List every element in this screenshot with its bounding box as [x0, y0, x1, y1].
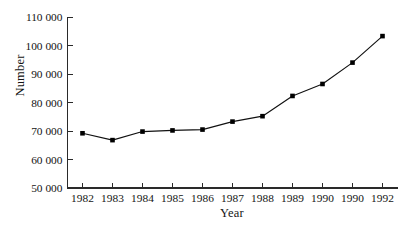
y-axis-ticks: 110 000100 00090 00080 00070 00060 00050…: [25, 11, 72, 194]
y-tick-label: 100 000: [25, 40, 62, 52]
data-point-marker: [200, 127, 205, 132]
chart-figure: Number Year 110 000100 00090 00080 00070…: [0, 0, 412, 228]
y-tick-label: 70 000: [31, 125, 63, 137]
data-point-marker: [110, 138, 115, 143]
x-tick-label: 1985: [161, 192, 184, 204]
data-point-marker: [350, 60, 355, 65]
x-tick-label: 1990: [341, 192, 364, 204]
data-point-marker: [230, 119, 235, 124]
y-tick-label: 80 000: [31, 97, 63, 109]
x-axis-ticks: 1982198319841985198619871988198919901990…: [71, 183, 394, 204]
x-tick-label: 1990: [311, 192, 334, 204]
x-tick-label: 1986: [191, 192, 214, 204]
x-tick-label: 1992: [371, 192, 394, 204]
data-point-marker: [170, 128, 175, 133]
x-tick-label: 1982: [71, 192, 94, 204]
data-point-marker: [320, 82, 325, 87]
plot-area: 110 000100 00090 00080 00070 00060 00050…: [0, 0, 412, 228]
data-point-marker: [260, 114, 265, 119]
axis-lines: [68, 17, 398, 188]
x-tick-label: 1989: [281, 192, 304, 204]
data-point-marker: [80, 131, 85, 136]
y-tick-label: 90 000: [31, 68, 63, 80]
x-tick-label: 1987: [221, 192, 244, 204]
y-tick-label: 110 000: [26, 11, 63, 23]
y-tick-label: 60 000: [31, 154, 63, 166]
x-tick-label: 1984: [131, 192, 154, 204]
y-tick-label: 50 000: [31, 182, 63, 194]
data-point-marker: [290, 94, 295, 99]
data-point-marker: [140, 129, 145, 134]
series-line: [83, 36, 383, 140]
series-markers: [80, 34, 385, 143]
data-point-marker: [380, 34, 385, 39]
x-tick-label: 1988: [251, 192, 274, 204]
x-tick-label: 1983: [101, 192, 124, 204]
